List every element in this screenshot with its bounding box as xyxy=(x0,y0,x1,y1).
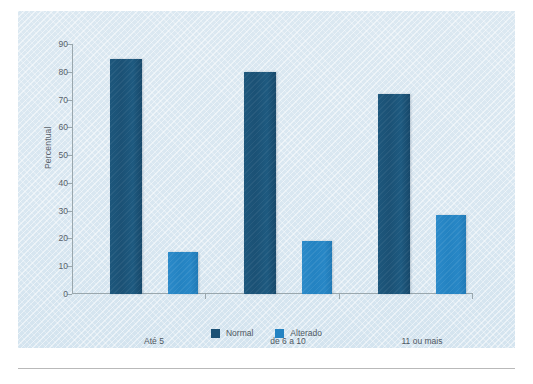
chart-panel: Percentual 0 10 20 30 40 xyxy=(18,11,515,348)
y-tick-label: 80 xyxy=(59,68,68,77)
legend-label-normal: Normal xyxy=(226,329,253,338)
x-tick-sep-2 xyxy=(339,294,340,299)
y-tick-label: 40 xyxy=(59,179,68,188)
plot-area: 0 10 20 30 40 50 xyxy=(72,44,473,294)
figure-page: Percentual 0 10 20 30 40 xyxy=(0,0,533,384)
y-tick-label: 90 xyxy=(59,40,68,49)
chart-legend: Normal Alterado xyxy=(18,329,515,338)
bar-alterado-de-6-a-10 xyxy=(302,241,332,294)
legend-item-alterado: Alterado xyxy=(275,329,322,338)
y-tick-label: 70 xyxy=(59,95,68,104)
y-axis-line xyxy=(72,44,73,294)
bar-alterado-ate-5 xyxy=(168,252,198,294)
y-tick-label: 60 xyxy=(59,123,68,132)
y-tick-label: 50 xyxy=(59,151,68,160)
y-tick-label: 20 xyxy=(59,234,68,243)
bottom-divider xyxy=(18,368,515,369)
legend-swatch-icon xyxy=(211,329,220,338)
bar-normal-ate-5 xyxy=(110,59,142,294)
y-axis-title: Percentual xyxy=(43,126,53,169)
legend-label-alterado: Alterado xyxy=(290,329,322,338)
bar-normal-de-6-a-10 xyxy=(244,72,276,294)
legend-swatch-icon xyxy=(275,329,284,338)
y-tick-label: 0 xyxy=(63,290,68,299)
x-tick-sep-3 xyxy=(472,294,473,299)
bar-alterado-11-ou-mais xyxy=(436,215,466,294)
y-tick-label: 30 xyxy=(59,206,68,215)
bar-normal-11-ou-mais xyxy=(378,94,410,294)
y-tick-label: 10 xyxy=(59,262,68,271)
legend-item-normal: Normal xyxy=(211,329,253,338)
x-tick-sep-1 xyxy=(205,294,206,299)
